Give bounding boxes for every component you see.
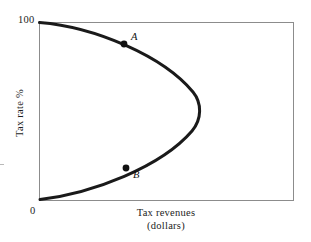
plot-frame [40, 23, 294, 201]
x-axis-title-line1: Tax revenues [137, 207, 196, 218]
y-axis-title-text: Tax rate % [14, 89, 26, 137]
data-point-a-label: A [131, 31, 137, 42]
laffer-curve-figure: 100 0 Tax rate % Tax revenues (dollars) … [0, 0, 311, 242]
x-axis-title-line2: (dollars) [39, 219, 293, 232]
data-point-b [123, 165, 130, 172]
y-axis-origin-label: 0 [30, 205, 35, 216]
x-axis-title: Tax revenues (dollars) [39, 206, 293, 232]
data-point-b-label: B [133, 169, 139, 180]
scan-edge-artifact [0, 164, 4, 165]
y-axis-max-tick-label: 100 [18, 14, 34, 25]
data-point-a [121, 41, 128, 48]
laffer-curve-path [40, 23, 200, 200]
